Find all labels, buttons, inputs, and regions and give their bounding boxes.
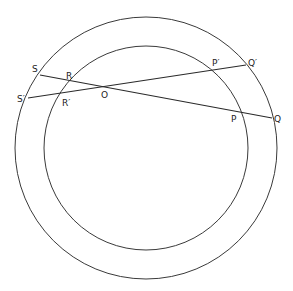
label-S-prime: S′ bbox=[17, 94, 25, 104]
label-Q: Q bbox=[274, 114, 281, 124]
secant-line-SQ bbox=[40, 75, 272, 118]
label-R: R bbox=[66, 71, 72, 81]
label-P-prime: P′ bbox=[212, 58, 219, 68]
inner-circle bbox=[44, 46, 248, 250]
label-S: S bbox=[32, 64, 38, 74]
geometry-diagram: S R S′ R′ O P′ Q′ P Q bbox=[0, 0, 293, 291]
label-Q-prime: Q′ bbox=[248, 58, 257, 68]
outer-circle bbox=[15, 17, 277, 279]
label-R-prime: R′ bbox=[62, 98, 70, 108]
label-O: O bbox=[101, 90, 108, 100]
label-P: P bbox=[231, 114, 237, 124]
